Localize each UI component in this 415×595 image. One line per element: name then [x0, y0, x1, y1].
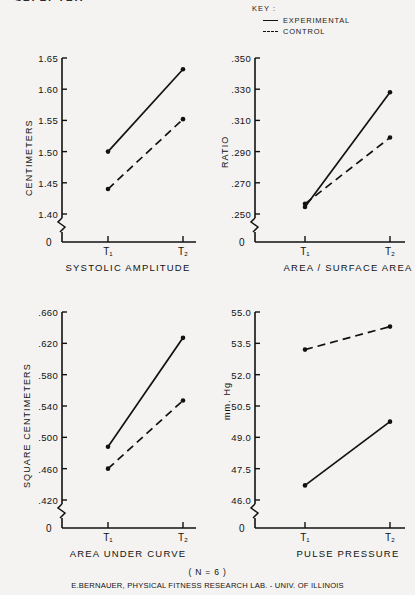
y-axis-origin-label: 0	[239, 523, 245, 534]
series-line-control	[108, 401, 183, 469]
chart-panel-pulse-pressure: mm. Hg46.047.549.050.552.053.555.00T₁T₂P…	[200, 0, 415, 595]
y-axis-break-icon	[251, 504, 258, 518]
y-axis-break-icon	[58, 504, 65, 518]
y-tick-label-4: .580	[38, 369, 58, 380]
data-point-control-t2	[388, 324, 393, 329]
y-tick-label-1: .460	[38, 463, 58, 474]
x-axis-caption: PULSE PRESSURE	[297, 548, 400, 559]
data-point-experimental-t1	[303, 483, 308, 488]
data-point-experimental-t1	[106, 444, 111, 449]
y-tick-label-6: .660	[38, 307, 58, 318]
data-point-experimental-t2	[181, 336, 186, 341]
chart-plot-area	[0, 0, 200, 595]
data-point-experimental-t2	[388, 419, 393, 424]
figure-canvas: SELECTED KEY : EXPERIMENTAL CONTROL CENT…	[0, 0, 415, 595]
x-tick-label-t2: T₂	[385, 532, 395, 543]
y-tick-label-1: 47.5	[231, 463, 251, 474]
y-tick-label-6: 55.0	[231, 307, 251, 318]
y-tick-label-0: .420	[38, 495, 58, 506]
x-axis-caption: AREA UNDER CURVE	[70, 548, 187, 559]
chart-plot-area	[200, 0, 415, 595]
series-line-control	[305, 327, 390, 350]
data-point-control-t1	[303, 347, 308, 352]
y-tick-label-5: 53.5	[231, 338, 251, 349]
y-tick-label-2: 49.0	[231, 432, 251, 443]
chart-panel-area-under-curve: SQUARE CENTIMETERS.420.460.500.540.580.6…	[0, 0, 200, 595]
credit-line: E.BERNAUER, PHYSICAL FITNESS RESEARCH LA…	[0, 581, 415, 590]
y-axis-label: SQUARE CENTIMETERS	[22, 363, 32, 488]
y-tick-label-3: .540	[38, 401, 58, 412]
x-tick-label-t1: T₁	[300, 532, 309, 543]
y-tick-label-4: 52.0	[231, 369, 251, 380]
data-point-control-t2	[181, 398, 186, 403]
x-tick-label-t1: T₁	[103, 532, 112, 543]
y-axis-origin-label: 0	[46, 523, 52, 534]
y-tick-label-5: .620	[38, 338, 58, 349]
series-line-experimental	[305, 422, 390, 486]
y-tick-label-2: .500	[38, 432, 58, 443]
series-line-experimental	[108, 338, 183, 447]
sample-size-note: ( N = 6 )	[0, 567, 415, 577]
data-point-control-t1	[106, 466, 111, 471]
x-tick-label-t2: T₂	[178, 532, 188, 543]
y-tick-label-3: 50.5	[231, 401, 251, 412]
y-tick-label-0: 46.0	[231, 495, 251, 506]
